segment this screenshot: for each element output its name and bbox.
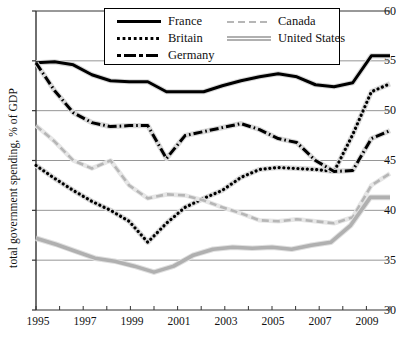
legend-swatch-france-icon [117, 17, 161, 27]
legend-label: Britain [168, 32, 203, 45]
legend-item-canada: Canada [227, 13, 345, 30]
legend-swatch-united-states-icon [227, 34, 271, 44]
series-halo-britain [36, 84, 390, 242]
series-halo-united-states [36, 197, 390, 272]
series-line-canada [36, 126, 390, 224]
series-halo-canada [36, 126, 390, 224]
legend-label: United States [278, 32, 345, 45]
legend-label: Canada [278, 15, 315, 28]
legend-swatch-canada-icon [227, 17, 271, 27]
series-line-germany [36, 63, 390, 172]
legend-label: France [168, 15, 202, 28]
series-halo-germany [36, 63, 390, 172]
legend-label: Germany [168, 49, 215, 62]
legend-item-france: France [117, 13, 215, 30]
chart-legend: France Britain Germany Canada United Sta… [104, 8, 340, 65]
legend-swatch-germany-icon [117, 51, 161, 61]
legend-item-britain: Britain [117, 30, 215, 47]
line-chart: total government spending, % of GDP 60 5… [0, 0, 396, 347]
legend-item-germany: Germany [117, 47, 215, 64]
legend-item-united-states: United States [227, 30, 345, 47]
legend-swatch-britain-icon [117, 34, 161, 44]
